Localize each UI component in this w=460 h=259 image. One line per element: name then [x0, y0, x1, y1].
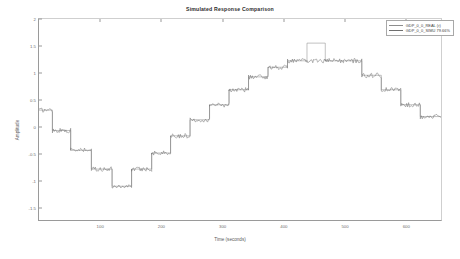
- x-tick-mark: [222, 19, 223, 22]
- legend-label: GDP_0_0_SIMU 79.66%: [406, 28, 450, 33]
- legend-entry-2[interactable]: GDP_0_0_SIMU 79.66%: [389, 28, 450, 33]
- x-tick-label: 200: [158, 224, 165, 229]
- legend-line-swatch: [389, 30, 403, 31]
- x-tick-label: 500: [341, 224, 348, 229]
- plot-canvas: [39, 19, 441, 220]
- x-tick-label: 100: [97, 224, 104, 229]
- x-tick-label: 300: [219, 224, 226, 229]
- y-tick-label: 1: [34, 71, 36, 76]
- x-tick-label: 600: [403, 224, 410, 229]
- x-axis-label: Time (seconds): [0, 237, 460, 242]
- x-tick-mark: [161, 19, 162, 22]
- y-tick-mark: [39, 154, 42, 155]
- series-line-1: [39, 43, 441, 186]
- y-tick-mark: [39, 19, 42, 20]
- x-tick-mark: [345, 19, 346, 22]
- y-tick-label: 0.5: [30, 98, 36, 103]
- y-tick-label: 1.5: [30, 44, 36, 49]
- y-tick-mark: [39, 73, 42, 74]
- x-tick-label: 400: [280, 224, 287, 229]
- y-tick-label: 0: [34, 125, 36, 130]
- y-tick-label: 2: [34, 17, 36, 22]
- y-tick-mark: [39, 208, 42, 209]
- figure-window: Simulated Response Comparison Amplitude …: [0, 0, 460, 259]
- x-tick-mark: [283, 19, 284, 22]
- y-tick-label: -0.5: [29, 152, 36, 157]
- chart-legend[interactable]: GDP_0_0_REAL (r)GDP_0_0_SIMU 79.66%: [386, 20, 454, 36]
- y-tick-mark: [39, 100, 42, 101]
- y-tick-mark: [39, 46, 42, 47]
- series-line-2: [39, 58, 441, 188]
- y-tick-label: -1.5: [29, 206, 36, 211]
- y-axis-label: Amplitude: [15, 119, 20, 139]
- y-tick-mark: [39, 127, 42, 128]
- y-tick-label: -1: [32, 179, 36, 184]
- legend-line-swatch: [389, 25, 403, 26]
- x-tick-mark: [100, 19, 101, 22]
- chart-title: Simulated Response Comparison: [0, 6, 460, 12]
- y-tick-mark: [39, 181, 42, 182]
- plot-area: 21.510.50-0.5-1-1.5100200300400500600: [38, 18, 442, 221]
